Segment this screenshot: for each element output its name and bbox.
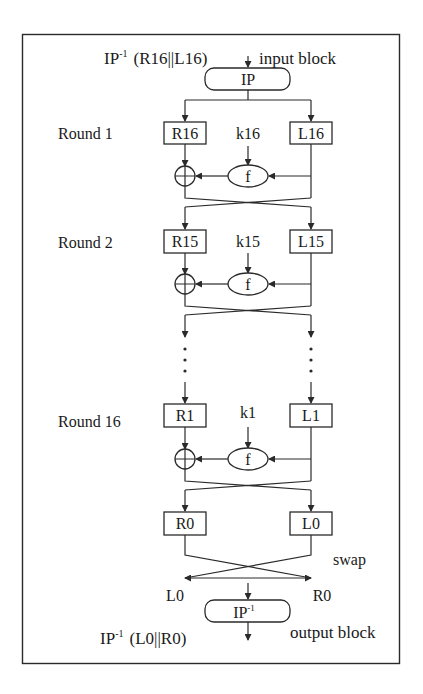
swap-cross [185, 535, 311, 578]
l16-label: L16 [298, 125, 324, 142]
bottom-left-label: IP-1(L0||R0) [100, 628, 186, 648]
r1-label: R1 [176, 407, 195, 424]
l15-label: L15 [298, 233, 324, 250]
output-block-label: output block [290, 623, 376, 642]
l0-label: L0 [302, 515, 320, 532]
ip-split-line [185, 90, 311, 100]
des-decryption-diagram: IP-1(R16||L16) input block IP Round 1 R1… [0, 0, 423, 694]
f-label-round1: f [245, 168, 251, 185]
ellipsis-dots [183, 347, 312, 372]
after-swap-right-label: R0 [313, 587, 332, 604]
round-1-label: Round 1 [58, 125, 113, 142]
k15-label: k15 [236, 233, 260, 250]
cross-1 [185, 186, 311, 207]
l1-label: L1 [302, 407, 320, 424]
after-swap-left-label: L0 [166, 587, 184, 604]
cross-2 [185, 294, 311, 315]
round-16-label: Round 16 [58, 413, 121, 430]
top-left-label: IP-1(R16||L16) [104, 48, 207, 68]
r0-label: R0 [176, 515, 195, 532]
k1-label: k1 [240, 404, 256, 421]
cross-16 [185, 469, 311, 490]
f-label-round16: f [245, 451, 251, 468]
round-2-label: Round 2 [58, 234, 113, 251]
r15-label: R15 [172, 233, 199, 250]
k16-label: k16 [236, 125, 260, 142]
r16-label: R16 [172, 125, 199, 142]
ip-box-label: IP [241, 71, 255, 88]
f-label-round2: f [245, 276, 251, 293]
input-block-label: input block [259, 49, 336, 68]
swap-label: swap [333, 551, 366, 569]
